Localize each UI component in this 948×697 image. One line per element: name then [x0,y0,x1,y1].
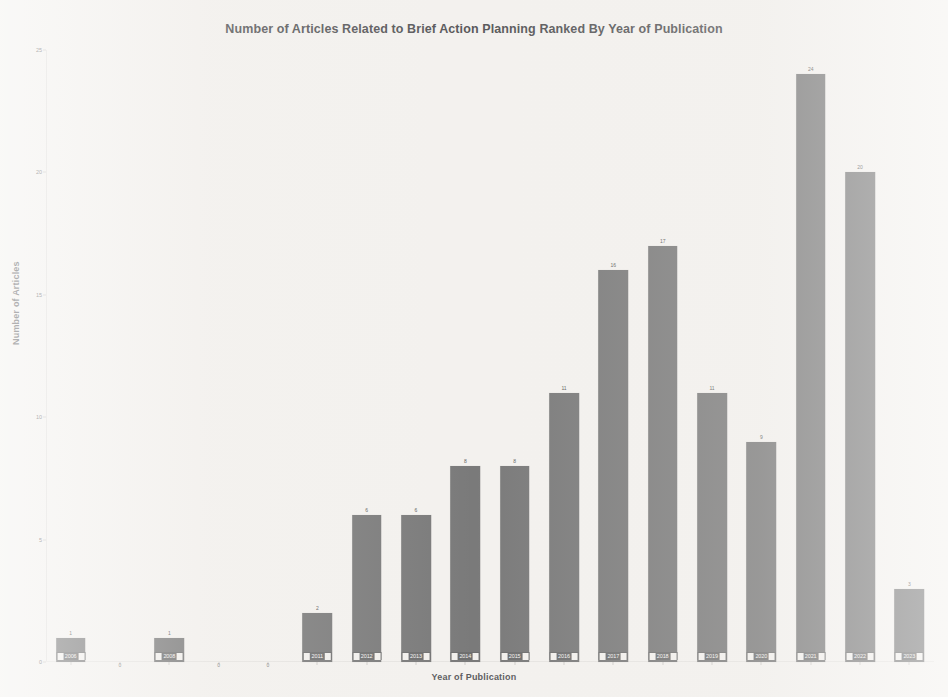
x-axis-year-chip: 2023 [895,652,924,660]
y-axis-tick-label: 5 [24,537,42,543]
x-axis-tick-mark [169,662,170,665]
x-axis-tick-mark [662,662,663,665]
bar-value-label: 8 [513,458,516,464]
chip-pad-right [473,653,479,660]
bar[interactable] [648,246,678,662]
chip-pad-right [522,653,528,660]
bar[interactable] [845,172,875,662]
bar-value-label: 20 [857,164,863,170]
bar[interactable] [549,393,579,662]
x-axis-tick-mark [514,662,515,665]
bar-group[interactable]: 0 [95,50,144,662]
chip-pad-left [896,653,902,660]
x-axis-tick-label: 2021 [804,653,817,660]
x-axis-title: Year of Publication [0,672,948,682]
chip-pad-right [325,653,331,660]
bar-group[interactable]: 242021 [786,50,835,662]
bar-value-label: 2 [316,605,319,611]
chip-pad-right [867,653,873,660]
y-axis-tick-label: 15 [24,292,42,298]
y-axis-title: Number of Articles [11,261,21,345]
bar-group[interactable]: 12008 [145,50,194,662]
x-axis-tick-mark [465,662,466,665]
x-axis-tick-mark [810,662,811,665]
y-axis-tick-label: 20 [24,169,42,175]
bar[interactable] [401,515,431,662]
x-axis-tick-mark [415,662,416,665]
bar-value-label: 1 [168,630,171,636]
chip-pad-left [748,653,754,660]
x-axis-tick-mark [613,662,614,665]
bar[interactable] [451,466,481,662]
bar-group[interactable]: 62013 [391,50,440,662]
bar[interactable] [895,589,925,662]
bar-value-label: 6 [415,507,418,513]
y-axis-tick-label: 25 [24,47,42,53]
bar[interactable] [352,515,382,662]
bar-value-label: 8 [464,458,467,464]
x-axis-tick-mark [711,662,712,665]
x-axis-tick-label: 2011 [311,653,323,660]
x-axis-tick-label: 2022 [854,653,867,660]
chip-pad-left [600,653,606,660]
bar[interactable] [500,466,530,662]
bar-group[interactable]: 62012 [342,50,391,662]
bar-value-label: 11 [709,385,714,391]
chip-pad-right [571,653,577,660]
x-axis-year-chip: 2013 [402,652,431,660]
bar-group[interactable]: 202022 [835,50,884,662]
bar-value-label: 24 [808,66,814,72]
bar-group[interactable]: 0 [194,50,243,662]
chip-pad-left [649,653,655,660]
bar-group[interactable]: 12006 [46,50,95,662]
bar-value-label: 16 [611,262,617,268]
bar-group[interactable]: 162017 [589,50,638,662]
chip-pad-left [353,653,359,660]
x-axis-tick-label: 2016 [558,653,571,660]
x-axis-tick-label: 2020 [755,653,768,660]
x-axis-year-chip: 2017 [599,652,628,660]
chip-pad-right [177,653,183,660]
bar-value-label: 6 [365,507,368,513]
bar-group[interactable]: 32023 [885,50,934,662]
bar-group[interactable]: 82014 [441,50,490,662]
x-axis-tick-label: 2019 [706,653,719,660]
x-axis-year-chip: 2006 [56,652,85,660]
chip-pad-right [719,653,725,660]
x-axis-tick-mark [563,662,564,665]
x-axis-tick-mark [761,662,762,665]
x-axis-year-chip: 2019 [698,652,727,660]
chip-pad-left [551,653,557,660]
bar-group[interactable]: 112016 [539,50,588,662]
chip-pad-left [452,653,458,660]
x-axis-tick-label: 2006 [64,653,77,660]
bar-group[interactable]: 92020 [737,50,786,662]
zero-value-marker: 0 [217,662,220,668]
chip-pad-right [769,653,775,660]
bar-group[interactable]: 172018 [638,50,687,662]
x-axis-tick-label: 2012 [360,653,373,660]
chip-pad-left [501,653,507,660]
bar-group[interactable]: 82015 [490,50,539,662]
x-axis-tick-label: 2023 [903,653,916,660]
bar-group[interactable]: 0 [243,50,292,662]
bar-group[interactable]: 112019 [687,50,736,662]
bar-value-label: 11 [561,385,566,391]
x-axis-year-chip: 2020 [747,652,776,660]
bar[interactable] [697,393,727,662]
bar-value-label: 9 [760,434,763,440]
x-axis-year-chip: 2008 [155,652,184,660]
x-axis-tick-mark [317,662,318,665]
bar-group[interactable]: 22011 [293,50,342,662]
bar[interactable] [796,74,826,662]
x-axis-tick-label: 2015 [508,653,521,660]
chip-pad-right [78,653,84,660]
chip-pad-right [374,653,380,660]
x-axis-year-chip: 2015 [500,652,529,660]
bar[interactable] [747,442,777,662]
chip-pad-left [304,653,310,660]
chart-title: Number of Articles Related to Brief Acti… [0,22,948,36]
bar[interactable] [599,270,629,662]
bar-value-label: 17 [660,238,666,244]
y-axis-tick-label: 0 [24,659,42,665]
